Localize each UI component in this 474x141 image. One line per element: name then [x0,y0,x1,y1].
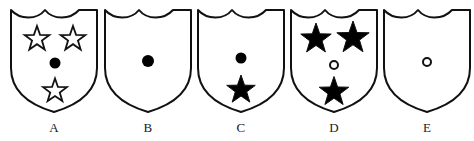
charge-circle-filled [142,55,154,67]
shield-shape-c [194,6,288,116]
shield-shape-b [101,6,195,116]
shield-label-a: A [7,120,101,135]
charge-circle-outline [423,58,431,66]
shield-label-d: D [287,120,381,135]
shield-shape-d [287,6,381,116]
shield-label-e: E [380,120,474,135]
shield-shape-e [380,6,474,116]
shield-item-c[interactable]: C [194,0,288,141]
shield-item-a[interactable]: A [7,0,101,141]
charge-circle-filled [50,58,61,69]
shield-item-b[interactable]: B [101,0,195,141]
charge-circle-outline [330,61,338,69]
shield-shape-a [7,6,101,116]
shield-figure: ABCDE [0,0,474,141]
shield-item-d[interactable]: D [287,0,381,141]
shield-label-b: B [101,120,195,135]
charge-circle-filled [236,53,247,64]
shield-label-c: C [194,120,288,135]
shield-item-e[interactable]: E [380,0,474,141]
